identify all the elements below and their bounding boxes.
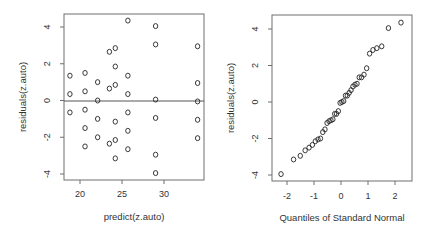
x-tick-label: 2 [392, 191, 397, 201]
x-tick-label: 0 [338, 191, 343, 201]
x-axis-label-right: Quantiles of Standard Normal [279, 212, 404, 223]
x-axis-left: 202530 [75, 180, 169, 199]
residuals-vs-fitted-plot: -4-2024 202530 predict(z.auto) residuals… [17, 14, 204, 222]
data-point [386, 26, 390, 31]
data-point [153, 42, 157, 47]
data-point [68, 73, 72, 78]
data-point [364, 66, 368, 71]
data-point [113, 138, 117, 143]
data-point [291, 157, 295, 162]
data-point [83, 70, 87, 75]
x-tick-label: 1 [365, 191, 370, 201]
data-point [126, 147, 130, 152]
data-point [83, 89, 87, 94]
data-point [153, 171, 157, 176]
data-point [380, 44, 384, 49]
y-tick-label: -2 [42, 133, 52, 141]
y-tick-label: -4 [250, 171, 260, 179]
data-point [195, 81, 199, 86]
data-point [113, 156, 117, 161]
y-tick-label: 0 [42, 98, 52, 103]
x-tick-label: 25 [117, 189, 127, 199]
y-tick-label: 4 [42, 24, 52, 29]
data-point [107, 49, 111, 54]
y-tick-label: 2 [250, 63, 260, 68]
scatter-points-left [68, 18, 200, 176]
normal-qq-plot: -4-2024 -2-1012 Quantiles of Standard No… [225, 15, 412, 223]
data-point [279, 172, 283, 177]
data-point [195, 136, 199, 141]
y-tick-label: 4 [250, 26, 260, 31]
x-tick-label: -2 [283, 191, 291, 201]
y-axis-left: -4-2024 [42, 24, 64, 178]
plot-frame-left [64, 14, 204, 180]
data-point [153, 115, 157, 120]
x-tick-label: 20 [75, 189, 85, 199]
data-point [126, 92, 130, 97]
data-point [298, 153, 302, 158]
data-point [83, 107, 87, 112]
data-point [153, 152, 157, 157]
y-tick-label: -4 [42, 170, 52, 178]
data-point [113, 119, 117, 124]
figure: -4-2024 202530 predict(z.auto) residuals… [0, 0, 433, 236]
data-point [375, 46, 379, 51]
plot-frame-right [272, 15, 412, 181]
data-point [95, 80, 99, 85]
x-axis-right: -2-1012 [283, 181, 398, 201]
y-tick-label: 2 [42, 61, 52, 66]
data-point [153, 24, 157, 29]
data-point [195, 117, 199, 122]
x-axis-label-left: predict(z.auto) [104, 211, 165, 222]
data-point [68, 92, 72, 97]
data-point [95, 116, 99, 121]
scatter-points-right [279, 20, 403, 176]
x-tick-label: -1 [310, 191, 318, 201]
y-axis-right: -4-2024 [250, 26, 272, 179]
data-point [126, 128, 130, 133]
data-point [195, 44, 199, 49]
data-point [113, 82, 117, 87]
data-point [113, 46, 117, 51]
y-axis-label-left: residuals(z.auto) [17, 62, 28, 132]
data-point [83, 144, 87, 149]
data-point [107, 141, 111, 146]
data-point [68, 110, 72, 115]
y-tick-label: -2 [250, 134, 260, 142]
data-point [83, 126, 87, 131]
data-point [126, 110, 130, 115]
data-point [126, 18, 130, 23]
data-point [399, 20, 403, 25]
y-axis-label-right: residuals(z.auto) [225, 63, 236, 133]
data-point [113, 64, 117, 69]
data-point [107, 86, 111, 91]
y-tick-label: 0 [250, 99, 260, 104]
data-point [95, 135, 99, 140]
data-point [126, 73, 130, 78]
x-tick-label: 30 [159, 189, 169, 199]
